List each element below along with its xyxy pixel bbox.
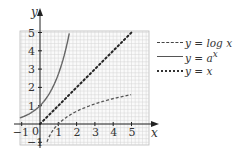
y-tick-label: 3 [28, 63, 35, 76]
x-tick-label: 2 [74, 126, 81, 139]
y-tick-label: 4 [28, 45, 35, 58]
y-tick-label: 2 [28, 81, 35, 94]
origin-label: 0 [32, 125, 39, 138]
legend-label-identity: y = x [185, 65, 212, 77]
x-axis-label: x [151, 126, 158, 140]
x-tick-label: 1 [55, 126, 62, 139]
legend-label-log: y = log x [185, 37, 232, 49]
legend: y = log x y = ax y = x [157, 37, 242, 79]
y-axis-arrow-icon [37, 8, 43, 16]
legend-item-log: y = log x [157, 37, 242, 48]
x-tick-label: 3 [92, 126, 99, 139]
solid-line-swatch [157, 56, 183, 57]
legend-item-exp: y = ax [157, 51, 242, 62]
dashed-line-swatch [157, 42, 183, 43]
y-axis-label: y [30, 5, 38, 19]
x-tick-label: 4 [110, 126, 117, 139]
legend-label-exp: y = ax [185, 49, 218, 64]
neg-y-tick-label: −1 [27, 136, 43, 149]
legend-item-identity: y = x [157, 65, 242, 76]
y-tick-label: 5 [28, 27, 35, 40]
x-tick-label: 5 [129, 126, 136, 139]
dotted-line-swatch [157, 70, 183, 72]
